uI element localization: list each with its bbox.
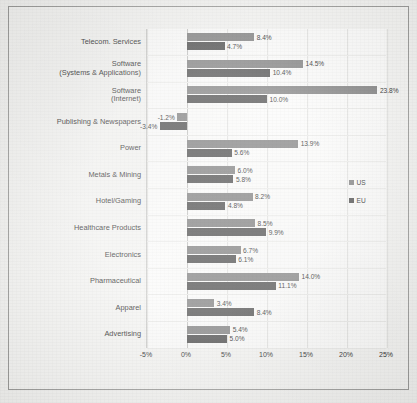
x-axis-tick-label: 25% (379, 351, 393, 358)
x-axis-tick-label: 20% (339, 351, 353, 358)
legend-label: EU (357, 197, 366, 204)
bar-eu (187, 69, 270, 77)
chart-row: Software(Internet)23.8%10.0% (147, 82, 386, 109)
bar-us (187, 60, 303, 68)
category-label: Advertising (104, 330, 141, 339)
bar-eu (187, 149, 232, 157)
bar-eu (160, 122, 187, 130)
category-label-line: Power (120, 144, 141, 153)
bar-value-label: 13.9% (301, 140, 320, 147)
bar-value-label: -3.4% (140, 123, 157, 130)
category-label: Apparel (116, 304, 141, 313)
category-label-line: Metals & Mining (88, 171, 141, 180)
category-label-line: Hotel/Gaming (96, 197, 141, 206)
x-axis-tick-label: 10% (259, 351, 273, 358)
chart-frame: Telecom. Services8.4%4.7%Software(System… (8, 6, 409, 390)
legend-label: US (357, 179, 366, 186)
category-label: Software(Internet) (111, 87, 141, 104)
chart-row: Electronics6.7%6.1% (147, 242, 386, 269)
category-label: Electronics (105, 251, 141, 260)
category-label-line: Advertising (104, 330, 141, 339)
chart-row: Apparel3.4%8.4% (147, 295, 386, 322)
bar-eu (187, 335, 227, 343)
bar-us (187, 140, 298, 148)
category-label: Pharmaceutical (90, 277, 141, 286)
bar-eu (187, 228, 266, 236)
bar-eu (187, 308, 254, 316)
bar-eu (187, 202, 225, 210)
x-axis-tick-label: 0% (181, 351, 191, 358)
bar-us (187, 299, 214, 307)
category-label-line: Apparel (116, 304, 141, 313)
bar-value-label: 5.8% (236, 176, 251, 183)
bar-value-label: 6.1% (238, 256, 253, 263)
bar-value-label: 23.8% (380, 87, 399, 94)
category-label-line: (Internet) (111, 95, 141, 103)
category-label: Publishing & Newspapers (57, 118, 141, 127)
bar-value-label: 9.9% (269, 229, 284, 236)
bar-value-label: 8.4% (257, 309, 272, 316)
x-axis-tick-label: 5% (221, 351, 231, 358)
bar-value-label: 8.2% (255, 193, 270, 200)
bar-value-label: 4.8% (228, 202, 243, 209)
bar-us (187, 326, 230, 334)
legend-swatch-icon (349, 198, 354, 203)
bar-value-label: 5.0% (230, 335, 245, 342)
bar-us (187, 33, 254, 41)
category-label-line: Pharmaceutical (90, 277, 141, 286)
chart-row: Pharmaceutical14.0%11.1% (147, 268, 386, 295)
category-label: Software(Systems & Applications) (59, 60, 141, 77)
chart-row: Telecom. Services8.4%4.7% (147, 29, 386, 56)
bar-value-label: 5.4% (233, 326, 248, 333)
bar-value-label: 14.0% (302, 273, 321, 280)
chart-screenshot: Telecom. Services8.4%4.7%Software(System… (0, 0, 417, 403)
chart-row: Healthcare Products8.5%9.9% (147, 215, 386, 242)
legend-item-us: US (349, 179, 395, 186)
category-label: Hotel/Gaming (96, 197, 141, 206)
bar-value-label: 4.7% (227, 43, 242, 50)
x-axis-tick-label: 15% (299, 351, 313, 358)
bar-value-label: 14.5% (306, 60, 325, 67)
bar-us (187, 166, 235, 174)
bar-eu (187, 95, 267, 103)
bar-value-label: -1.2% (158, 114, 175, 121)
bar-eu (187, 282, 276, 290)
category-label-line: (Systems & Applications) (59, 69, 141, 77)
legend-swatch-icon (349, 180, 354, 185)
bar-eu (187, 42, 225, 50)
bar-value-label: 10.4% (273, 69, 292, 76)
category-label-line: Telecom. Services (81, 38, 141, 47)
bar-eu (187, 255, 236, 263)
bar-value-label: 8.5% (258, 220, 273, 227)
category-label: Metals & Mining (88, 171, 141, 180)
bar-us (187, 193, 253, 201)
bar-eu (187, 175, 233, 183)
x-axis-tick-label: -5% (140, 351, 152, 358)
chart-row: Power13.9%5.6% (147, 135, 386, 162)
category-label: Telecom. Services (81, 38, 141, 47)
chart-row: Advertising5.4%5.0% (147, 321, 386, 348)
legend-item-eu: EU (349, 197, 395, 204)
bar-value-label: 10.0% (270, 96, 289, 103)
bar-us (187, 246, 241, 254)
bar-value-label: 6.7% (243, 247, 258, 254)
bar-us (187, 273, 299, 281)
bar-value-label: 5.6% (234, 149, 249, 156)
x-axis: -5%0%5%10%15%20%25% (146, 351, 386, 365)
category-label: Healthcare Products (74, 224, 141, 233)
bar-value-label: 6.0% (238, 167, 253, 174)
bar-us (187, 219, 255, 227)
bar-us (177, 113, 187, 121)
chart-row: Software(Systems & Applications)14.5%10.… (147, 56, 386, 83)
category-label: Power (120, 144, 141, 153)
bar-value-label: 3.4% (217, 300, 232, 307)
chart-legend: USEU (349, 179, 395, 215)
chart-row: Publishing & Newspapers-1.2%-3.4% (147, 109, 386, 136)
category-label-line: Healthcare Products (74, 224, 141, 233)
bar-value-label: 8.4% (257, 34, 272, 41)
category-label-line: Electronics (105, 251, 141, 260)
bar-value-label: 11.1% (278, 282, 296, 289)
bar-us (187, 86, 377, 94)
category-label-line: Publishing & Newspapers (57, 118, 141, 127)
